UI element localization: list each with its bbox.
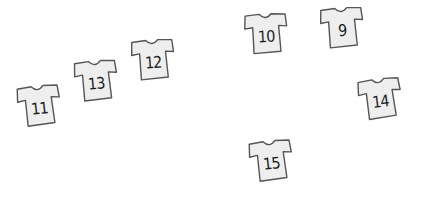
jersey-12[interactable]: 12	[129, 36, 178, 81]
jersey-number: 12	[132, 53, 175, 74]
jersey-number: 9	[321, 21, 364, 42]
jersey-9[interactable]: 9	[318, 4, 367, 49]
jersey-13[interactable]: 13	[71, 57, 120, 103]
jersey-15[interactable]: 15	[246, 137, 296, 184]
jersey-11[interactable]: 11	[14, 82, 64, 129]
jersey-number: 13	[75, 73, 118, 95]
jersey-number: 10	[245, 27, 287, 47]
jersey-10[interactable]: 10	[242, 11, 290, 55]
jersey-14[interactable]: 14	[355, 74, 406, 121]
